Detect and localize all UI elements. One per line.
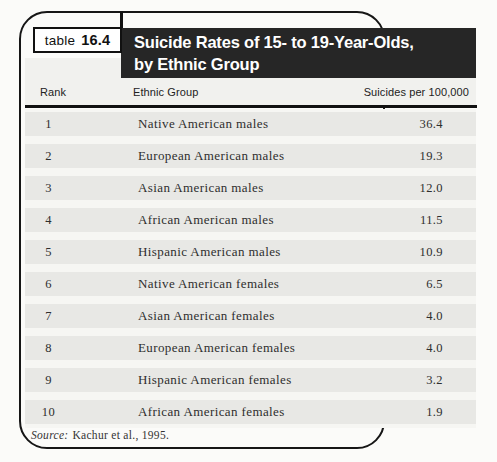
- rate-cell: 12.0: [264, 176, 476, 200]
- table-title-line1: Suicide Rates of 15- to 19-Year-Olds,: [134, 32, 466, 54]
- rank-cell: 9: [25, 368, 72, 392]
- table-tab: table 16.4: [33, 27, 122, 53]
- group-cell: European American males: [138, 144, 284, 168]
- rank-cell: 8: [25, 336, 72, 360]
- group-cell: African American females: [138, 400, 285, 424]
- table-row: 4African American males11.5: [25, 208, 476, 232]
- group-cell: Asian American males: [138, 176, 264, 200]
- table-row: 2European American males19.3: [25, 144, 476, 168]
- rank-cell: 6: [25, 272, 72, 296]
- table-title-line2: by Ethnic Group: [134, 54, 466, 76]
- rank-cell: 3: [25, 176, 72, 200]
- rank-cell: 7: [25, 304, 72, 328]
- group-cell: Hispanic American males: [138, 240, 281, 264]
- group-cell: Native American males: [138, 112, 268, 136]
- rank-cell: 5: [25, 240, 72, 264]
- group-cell: Native American females: [138, 272, 279, 296]
- table-title-banner: Suicide Rates of 15- to 19-Year-Olds, by…: [121, 28, 476, 78]
- rate-cell: 36.4: [268, 112, 476, 136]
- rate-cell: 10.9: [281, 240, 476, 264]
- column-header-group: Ethnic Group: [133, 86, 198, 98]
- rate-cell: 3.2: [292, 368, 476, 392]
- group-cell: European American females: [138, 336, 295, 360]
- source-note: Source:Kachur et al., 1995.: [31, 429, 169, 441]
- tab-word: table: [45, 33, 75, 48]
- table-row: 6Native American females6.5: [25, 272, 476, 296]
- column-header-rank: Rank: [40, 86, 66, 98]
- rank-cell: 2: [25, 144, 72, 168]
- table-body: 1Native American males36.42European Amer…: [25, 109, 476, 428]
- group-cell: Hispanic American females: [138, 368, 292, 392]
- table-row: 7Asian American females4.0: [25, 304, 476, 328]
- rate-cell: 4.0: [275, 304, 476, 328]
- rank-cell: 10: [25, 400, 72, 424]
- table-row: 9Hispanic American females3.2: [25, 368, 476, 392]
- source-label: Source:: [31, 429, 68, 441]
- figure-page: table 16.4 Suicide Rates of 15- to 19-Ye…: [0, 0, 497, 462]
- tab-number: 16.4: [81, 32, 110, 48]
- group-cell: Asian American females: [138, 304, 275, 328]
- rate-cell: 11.5: [274, 208, 476, 232]
- table-row: 8European American females4.0: [25, 336, 476, 360]
- table-row: 10African American females1.9: [25, 400, 476, 424]
- table-row: 3Asian American males12.0: [25, 176, 476, 200]
- header-divider-rule: [25, 105, 477, 109]
- rate-cell: 1.9: [285, 400, 476, 424]
- rate-cell: 4.0: [295, 336, 476, 360]
- rate-cell: 6.5: [279, 272, 476, 296]
- table-row: 1Native American males36.4: [25, 112, 476, 136]
- rank-cell: 4: [25, 208, 72, 232]
- source-text: Kachur et al., 1995.: [72, 429, 169, 441]
- group-cell: African American males: [138, 208, 274, 232]
- table-row: 5Hispanic American males10.9: [25, 240, 476, 264]
- rate-cell: 19.3: [284, 144, 476, 168]
- column-header-rate: Suicides per 100,000: [364, 86, 469, 98]
- rank-cell: 1: [25, 112, 72, 136]
